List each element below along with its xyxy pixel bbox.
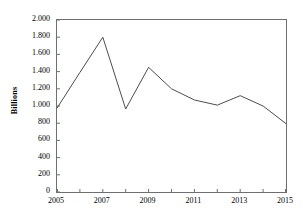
axis-tick-marks (57, 20, 286, 192)
x-axis-tick-labels: 200520072009201120132015 (56, 196, 286, 212)
x-tick-label: 2007 (94, 196, 110, 205)
y-tick-label: 0 (46, 187, 50, 195)
y-axis-tick-labels: 02004006008001.0001.2001.4001.6001.8002.… (18, 19, 53, 191)
x-tick-label: 2005 (48, 196, 64, 205)
line-chart-figure: Billions 02004006008001.0001.2001.4001.6… (0, 0, 303, 220)
y-tick-label: 200 (38, 170, 50, 178)
data-line-svg (57, 20, 286, 192)
y-tick-label: 800 (38, 118, 50, 126)
plot-area (56, 19, 287, 193)
y-tick-label: 400 (38, 153, 50, 161)
y-tick-label: 1.800 (32, 32, 50, 40)
x-tick-label: 2011 (186, 196, 202, 205)
y-tick-label: 1.200 (32, 84, 50, 92)
data-series-line (57, 37, 286, 123)
y-tick-label: 600 (38, 135, 50, 143)
y-tick-label: 2.000 (32, 15, 50, 23)
x-tick-label: 2015 (277, 196, 293, 205)
y-tick-label: 1.000 (32, 101, 50, 109)
y-tick-label: 1.400 (32, 67, 50, 75)
y-tick-label: 1.600 (32, 49, 50, 57)
x-tick-label: 2013 (231, 196, 247, 205)
x-tick-label: 2009 (140, 196, 156, 205)
